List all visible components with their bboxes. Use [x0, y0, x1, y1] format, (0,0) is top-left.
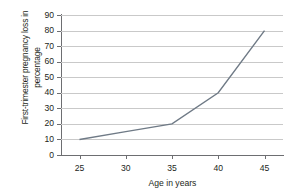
y-axis-tick-label: 50 [14, 73, 54, 82]
x-axis-tick-mark [265, 155, 266, 159]
y-axis-tick-label: 90 [14, 11, 54, 20]
y-axis-tick-label: 20 [14, 119, 54, 128]
gridline [61, 46, 283, 47]
gridline [61, 77, 283, 78]
gridline [61, 124, 283, 125]
plot-area [61, 15, 283, 155]
gridline [61, 62, 283, 63]
y-axis-tick-label: 80 [14, 26, 54, 35]
y-axis-tick-label: 30 [14, 104, 54, 113]
x-axis-title: Age in years [61, 178, 284, 188]
y-axis-tick-label: 60 [14, 57, 54, 66]
x-axis-tick-label: 25 [65, 163, 95, 173]
x-axis-tick-label: 35 [157, 163, 187, 173]
x-axis-tick-mark [80, 155, 81, 159]
x-axis-tick-label: 40 [203, 163, 233, 173]
y-axis-tick-label: 40 [14, 88, 54, 97]
y-axis-tick-label: 70 [14, 42, 54, 51]
x-axis-tick-mark [172, 155, 173, 159]
gridline [61, 31, 283, 32]
x-axis-tick-label: 30 [111, 163, 141, 173]
x-axis-tick-label: 45 [250, 163, 280, 173]
x-axis-tick-mark [218, 155, 219, 159]
y-axis-tick-label: 0 [14, 151, 54, 160]
gridline [61, 108, 283, 109]
chart-figure: First-trimester pregnancy loss in percen… [0, 0, 289, 196]
gridline [61, 139, 283, 140]
gridline [61, 15, 283, 16]
gridline [61, 93, 283, 94]
x-axis-tick-mark [126, 155, 127, 159]
y-axis-tick-label: 10 [14, 135, 54, 144]
